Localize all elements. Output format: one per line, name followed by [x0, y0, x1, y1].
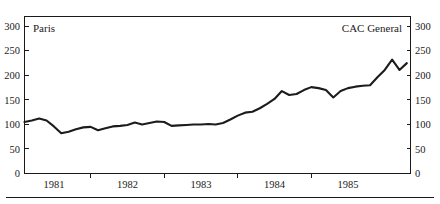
y-tick-label-right: 0	[415, 168, 420, 179]
y-tick-label-left: 100	[4, 119, 20, 130]
plot-border	[25, 17, 411, 174]
y-tick-label-right: 50	[415, 144, 426, 155]
x-tick-label: 1984	[264, 179, 286, 190]
x-tick-label: 1981	[43, 179, 64, 190]
y-tick-label-left: 250	[4, 45, 20, 56]
panel-label-cac-general: CAC General	[342, 22, 402, 34]
left-axis-labels: 050100150200250300	[4, 21, 20, 179]
y-tick-label-right: 100	[415, 119, 431, 130]
axis-ticks	[25, 26, 411, 177]
y-tick-label-right: 200	[415, 70, 431, 81]
cac-general-line	[25, 60, 407, 134]
stock-index-line-chart: 050100150200250300 050100150200250300 19…	[0, 0, 440, 204]
x-axis-labels: 19811982198319841985	[43, 179, 358, 190]
series-path-group	[25, 60, 407, 134]
panel-label-paris: Paris	[33, 22, 55, 34]
x-tick-label: 1982	[117, 179, 138, 190]
y-tick-label-right: 150	[415, 95, 431, 106]
plot-frame	[25, 17, 411, 174]
y-tick-label-left: 0	[15, 168, 20, 179]
chart-figure: 050100150200250300 050100150200250300 19…	[0, 0, 440, 204]
y-tick-label-right: 300	[415, 21, 431, 32]
y-tick-label-left: 150	[4, 95, 20, 106]
right-axis-labels: 050100150200250300	[415, 21, 431, 179]
y-tick-label-right: 250	[415, 45, 431, 56]
y-tick-label-left: 50	[10, 144, 21, 155]
x-tick-label: 1985	[338, 179, 359, 190]
y-tick-label-left: 300	[4, 21, 20, 32]
x-tick-label: 1983	[190, 179, 211, 190]
y-tick-label-left: 200	[4, 70, 20, 81]
